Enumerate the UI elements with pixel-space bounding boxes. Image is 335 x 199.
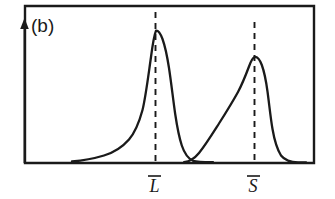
plot-frame-box	[25, 6, 314, 163]
panel-label: (b)	[31, 15, 54, 36]
y-axis-arrow-head-icon	[20, 18, 29, 29]
mean-S-label: S	[249, 176, 258, 196]
mean-S-tick-label-group: S	[247, 176, 260, 196]
distribution-plot-svg: (b) L S	[0, 0, 335, 199]
mean-L-label: L	[149, 176, 160, 196]
figure-panel-b: (b) L S	[0, 0, 335, 199]
distribution-curve-L	[72, 31, 213, 163]
mean-L-tick-label-group: L	[148, 176, 161, 196]
distribution-curve-S	[184, 57, 306, 163]
